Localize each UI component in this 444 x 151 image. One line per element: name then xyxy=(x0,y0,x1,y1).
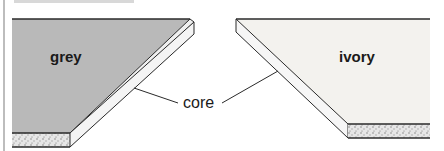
grey-label: grey xyxy=(50,48,82,65)
laminate-diagram xyxy=(0,0,444,151)
grey-board xyxy=(12,19,194,147)
ivory-label: ivory xyxy=(339,48,375,65)
core-leader-right xyxy=(222,71,278,103)
core-label: core xyxy=(183,94,214,112)
core-leader-left xyxy=(134,88,178,103)
